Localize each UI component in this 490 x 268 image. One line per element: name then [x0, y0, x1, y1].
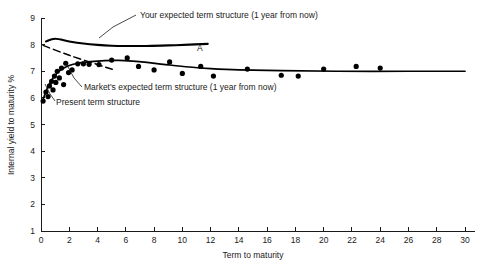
y-tick-label-7: 7: [30, 66, 35, 76]
y-tick-label-9: 9: [30, 13, 35, 23]
label-point-a: A: [197, 43, 203, 53]
x-tick-label-26: 26: [404, 235, 414, 245]
x-tick-label-14: 14: [234, 235, 244, 245]
scatter-point: [125, 55, 130, 60]
x-tick-label-2: 2: [67, 235, 72, 245]
curve-your-expected-term-structure: [46, 39, 208, 46]
y-tick-label-8: 8: [30, 40, 35, 50]
scatter-point: [41, 98, 46, 103]
x-tick-label-16: 16: [262, 235, 272, 245]
y-tick-label-2: 2: [30, 199, 35, 209]
label-your-expected: Your expected term structure (1 year fro…: [140, 10, 318, 20]
scatter-point: [180, 71, 185, 76]
x-tick-label-18: 18: [291, 235, 301, 245]
x-tick-label-10: 10: [178, 235, 188, 245]
scatter-point: [279, 73, 284, 78]
chart-axes: [41, 18, 475, 231]
scatter-point: [167, 59, 172, 64]
scatter-point: [109, 57, 114, 62]
scatter-point: [52, 73, 57, 78]
y-tick-label-6: 6: [30, 93, 35, 103]
chart-annotations: Your expected term structure (1 year fro…: [45, 10, 318, 107]
curve-present-term-structure: [43, 45, 114, 70]
y-tick-label-5: 5: [30, 120, 35, 130]
x-tick-label-20: 20: [319, 235, 329, 245]
scatter-point: [59, 65, 64, 70]
x-tick-label-24: 24: [375, 235, 385, 245]
scatter-point: [55, 69, 60, 74]
curve-markets-expected-term-structure: [43, 60, 465, 99]
scatter-point: [45, 94, 50, 99]
scatter-point: [50, 87, 55, 92]
label-present-term-structure: Present term structure: [56, 97, 140, 107]
y-tick-label-1: 1: [30, 226, 35, 236]
scatter-point: [61, 82, 66, 87]
scatter-point: [136, 64, 141, 69]
y-tick-label-3: 3: [30, 173, 35, 183]
scatter-point: [75, 61, 80, 66]
scatter-point: [378, 65, 383, 70]
x-tick-label-22: 22: [347, 235, 357, 245]
x-tick-label-30: 30: [460, 235, 470, 245]
scatter-point: [354, 64, 359, 69]
scatter-point: [296, 73, 301, 78]
scatter-point: [57, 75, 62, 80]
scatter-point: [53, 80, 58, 85]
y-tick-label-4: 4: [30, 146, 35, 156]
y-axis-title: Internal yield to maturity %: [6, 74, 16, 175]
x-tick-label-6: 6: [123, 235, 128, 245]
x-tick-label-28: 28: [432, 235, 442, 245]
scatter-point: [81, 61, 86, 66]
x-tick-label-0: 0: [39, 235, 44, 245]
y-tick-labels: 123456789: [30, 13, 35, 236]
scatter-point: [47, 83, 52, 88]
x-tick-label-8: 8: [152, 235, 157, 245]
chart-figure: 123456789 024681012141618202224262830 Yo…: [0, 0, 490, 268]
scatter-point: [245, 67, 250, 72]
term-structure-chart: 123456789 024681012141618202224262830 Yo…: [0, 0, 490, 268]
x-axis-title: Term to maturity: [223, 250, 285, 260]
scatter-point: [321, 67, 326, 72]
x-tick-label-12: 12: [206, 235, 216, 245]
scatter-point: [151, 67, 156, 72]
scatter-point: [198, 64, 203, 69]
leader-line-label-your-expected: [99, 15, 136, 38]
scatter-point: [211, 73, 216, 78]
scatter-point: [86, 62, 91, 67]
label-markets-expected: Market's expected term structure (1 year…: [84, 82, 277, 92]
x-tick-label-4: 4: [95, 235, 100, 245]
scatter-point: [96, 62, 101, 67]
x-tick-labels: 024681012141618202224262830: [39, 235, 470, 245]
